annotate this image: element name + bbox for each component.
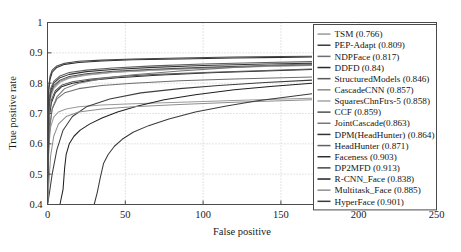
roc-chart-figure: 0.40.50.60.70.80.91 050100150200250 Fals… [0,0,461,252]
legend-label: JointCascade(0.863) [335,118,410,128]
legend-label: DP2MFD (0.913) [335,163,400,173]
legend-label: StructuredModels (0.846) [335,74,430,84]
roc-curve [48,77,313,204]
legend-label: DDFD (0.84) [335,63,385,73]
y-tick-label: 0.9 [29,47,42,58]
legend-label: SquaresChnFtrs-5 (0.858) [335,96,430,106]
legend-label: DPM(HeadHunter) (0.864) [335,130,435,140]
y-tick-label: 0.4 [29,199,43,210]
y-tick-label: 0.8 [29,78,42,89]
roc-curve [48,98,313,204]
curves-layer [48,56,313,204]
legend: TSM (0.766)PEP-Adapt (0.809)NDPFace (0.8… [314,25,437,210]
y-tick-label: 0.5 [29,169,42,180]
x-tick-label: 150 [273,209,289,220]
x-tick-label: 50 [120,209,131,220]
legend-label: TSM (0.766) [335,29,383,39]
x-tick-label: 100 [195,209,211,220]
y-tick-labels: 0.40.50.60.70.80.91 [29,17,43,210]
chart-canvas: 0.40.50.60.70.80.91 050100150200250 Fals… [0,0,461,252]
legend-label: HyperFace (0.901) [335,197,404,207]
roc-curve [48,63,313,204]
y-tick-label: 0.7 [29,108,42,119]
y-tick-label: 0.6 [29,138,42,149]
x-tick-label: 0 [45,209,50,220]
x-axis-title: False positive [213,226,271,237]
roc-curve [48,70,313,205]
legend-label: R-CNN_Face (0.838) [335,174,415,184]
legend-label: Multitask_Face (0.885) [335,185,421,195]
legend-label: CCF (0.859) [335,107,381,117]
y-tick-label: 1 [37,17,42,28]
legend-label: CascadeCNN (0.857) [335,85,414,95]
legend-label: PEP-Adapt (0.809) [335,40,405,50]
roc-curve [48,64,313,205]
legend-label: Faceness (0.903) [335,152,397,162]
y-axis-title: True positive rate [7,76,18,150]
roc-curve [48,65,313,205]
legend-label: HeadHunter (0.871) [335,141,409,151]
legend-label: NDPFace (0.817) [335,52,400,62]
roc-curve [48,69,313,205]
